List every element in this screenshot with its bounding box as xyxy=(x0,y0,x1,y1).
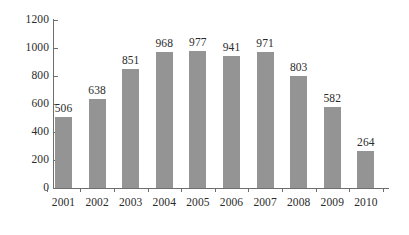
y-axis-tick-label: 400 xyxy=(0,126,49,138)
y-axis-tick-label: 200 xyxy=(0,154,49,166)
bar-value-label: 506 xyxy=(43,102,85,114)
bar-value-label: 638 xyxy=(76,84,118,96)
y-axis-tick-label-text: 400 xyxy=(5,126,49,138)
bar-chart: 020040060080010001200 200120022003200420… xyxy=(0,0,409,235)
bar xyxy=(324,107,341,188)
bar xyxy=(189,51,206,188)
x-axis-tick xyxy=(215,188,216,192)
y-axis-tick xyxy=(53,48,58,49)
x-axis-tick xyxy=(316,188,317,192)
bar xyxy=(290,76,307,188)
x-axis-tick-label: 2010 xyxy=(346,196,386,208)
bar xyxy=(122,69,139,188)
bar-value-label: 264 xyxy=(345,136,387,148)
bar-value-label: 803 xyxy=(278,61,320,73)
y-axis-tick-label-text: 200 xyxy=(5,154,49,166)
y-axis-tick-label-text: 800 xyxy=(5,70,49,82)
bar-value-label: 851 xyxy=(110,54,152,66)
x-axis-tick xyxy=(80,188,81,192)
bar xyxy=(55,117,72,188)
x-axis-tick xyxy=(383,188,384,192)
y-axis-tick-label-text: 1200 xyxy=(5,14,49,26)
bar-value-label: 971 xyxy=(244,37,286,49)
bar xyxy=(89,99,106,188)
x-axis-tick xyxy=(282,188,283,192)
y-axis-tick xyxy=(53,188,58,189)
x-axis-tick xyxy=(349,188,350,192)
y-axis-tick xyxy=(53,76,58,77)
y-axis-tick-label: 800 xyxy=(0,70,49,82)
x-axis-tick xyxy=(114,188,115,192)
bar xyxy=(257,52,274,188)
bar xyxy=(156,52,173,188)
y-axis-tick xyxy=(53,20,58,21)
y-axis-tick-label: 0 xyxy=(0,182,49,194)
x-axis-tick xyxy=(148,188,149,192)
x-axis-tick xyxy=(47,188,48,192)
y-axis-tick-label: 1200 xyxy=(0,14,49,26)
x-axis-tick xyxy=(181,188,182,192)
x-axis-line xyxy=(53,188,389,189)
bar xyxy=(357,151,374,188)
y-axis-tick-label: 1000 xyxy=(0,42,49,54)
bar xyxy=(223,56,240,188)
y-axis-tick-label-text: 1000 xyxy=(5,42,49,54)
y-axis-tick-label-text: 0 xyxy=(5,182,49,194)
bar-value-label: 582 xyxy=(311,92,353,104)
x-axis-tick xyxy=(248,188,249,192)
